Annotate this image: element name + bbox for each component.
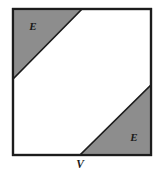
geometry-figure: E E V: [0, 0, 160, 177]
label-e-bottom-right: E: [129, 131, 137, 143]
figure-container: E E V: [0, 0, 160, 177]
label-v-vertex: V: [76, 158, 85, 170]
label-e-top-left: E: [28, 20, 36, 32]
